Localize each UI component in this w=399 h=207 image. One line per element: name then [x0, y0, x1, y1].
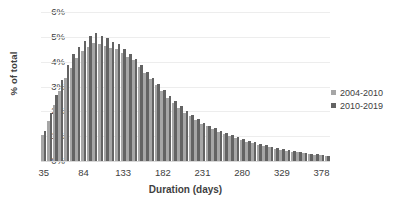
axis-baseline — [41, 161, 330, 162]
legend-item[interactable]: 2010-2019 — [331, 99, 383, 112]
y-axis-title: % of total — [8, 39, 19, 109]
legend-swatch-icon — [331, 90, 336, 95]
x-tick-label: 378 — [307, 167, 337, 178]
legend-item[interactable]: 2004-2010 — [331, 86, 383, 99]
x-tick-label: 231 — [188, 167, 218, 178]
x-tick-label: 329 — [267, 167, 297, 178]
bar-group — [325, 12, 331, 161]
x-tick-label: 84 — [69, 167, 99, 178]
legend-label: 2004-2010 — [340, 88, 383, 98]
x-tick-label: 133 — [108, 167, 138, 178]
x-tick-label: 280 — [227, 167, 257, 178]
chart-legend: 2004-20102010-2019 — [331, 86, 383, 112]
legend-label: 2010-2019 — [340, 101, 383, 111]
plot-area — [41, 12, 330, 162]
x-tick-label: 182 — [148, 167, 178, 178]
chart-container: % of total 6%5%4%3%2%1%0% 35841331822312… — [0, 0, 399, 207]
x-axis-title: Duration (days) — [41, 184, 330, 195]
x-tick-label: 35 — [29, 167, 59, 178]
bar-series-group — [41, 12, 330, 161]
bar-2010-2019 — [327, 156, 330, 161]
legend-swatch-icon — [331, 103, 336, 108]
